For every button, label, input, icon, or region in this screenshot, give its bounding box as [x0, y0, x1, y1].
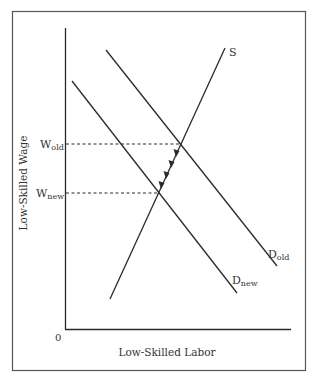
supply-label: S — [229, 46, 237, 59]
demand-new-curve — [72, 81, 237, 293]
wage-old-label: Wold — [40, 138, 64, 152]
supply-demand-diagram: S Dold Dnew Wold Wnew 0 Low-Skilled Labo… — [0, 0, 316, 380]
y-axis-label: Low-Skilled Wage — [17, 136, 29, 231]
wage-new-label: Wnew — [36, 187, 64, 201]
demand-new-label: Dnew — [232, 274, 258, 288]
demand-old-label: Dold — [268, 248, 289, 262]
origin-label: 0 — [55, 332, 61, 343]
x-axis-label: Low-Skilled Labor — [118, 346, 216, 358]
